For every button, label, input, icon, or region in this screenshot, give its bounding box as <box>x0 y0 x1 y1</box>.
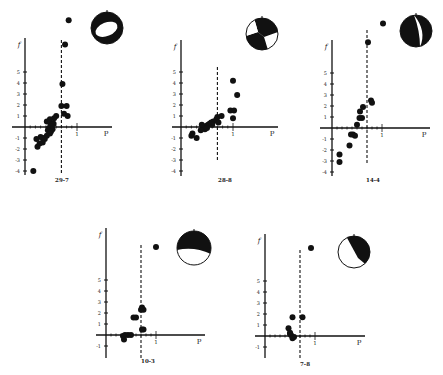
y-tick-label: 5 <box>173 69 176 75</box>
data-point <box>347 143 353 149</box>
y-tick-label: 3 <box>173 91 176 97</box>
data-point <box>121 336 127 342</box>
y-axis-label: f <box>324 43 329 51</box>
figure-canvas: 54321-1-2-3-41Pf29-754321-1-2-3-41Pf28-8… <box>0 0 443 375</box>
y-tick-label: -1 <box>255 344 260 350</box>
y-tick-label: 3 <box>324 92 327 98</box>
data-point <box>290 314 296 320</box>
y-tick-label: 2 <box>173 102 176 108</box>
data-point <box>357 115 363 121</box>
y-tick-label: -2 <box>171 146 176 152</box>
data-point <box>64 103 70 109</box>
data-point <box>62 42 68 48</box>
y-tick-label: 3 <box>98 299 101 305</box>
data-point <box>204 125 210 131</box>
data-point <box>40 139 46 145</box>
data-point <box>131 314 137 320</box>
panel-14-4: 54321-1-2-3-41Pf14-4 <box>320 13 432 183</box>
x-axis-label: P <box>197 338 202 346</box>
data-point <box>380 21 386 27</box>
data-point <box>153 244 159 250</box>
panel-label: 14-4 <box>366 177 380 183</box>
y-tick-label: -4 <box>171 168 176 174</box>
y-tick-label: 5 <box>17 69 20 75</box>
data-point <box>308 245 314 251</box>
y-tick-label: -1 <box>96 343 101 349</box>
focal-mechanism-beachball-icon <box>400 13 432 47</box>
x-tick-label: 1 <box>380 132 384 138</box>
y-axis-label: f <box>257 237 262 245</box>
panel-label: 10-3 <box>141 358 155 364</box>
y-tick-label: 5 <box>257 278 260 284</box>
x-tick-label: 1 <box>154 339 158 345</box>
y-tick-label: -2 <box>15 146 20 152</box>
data-point <box>287 330 293 336</box>
y-tick-label: -2 <box>322 147 327 153</box>
y-tick-label: 1 <box>173 113 176 119</box>
data-point <box>337 159 343 165</box>
data-point <box>194 135 200 141</box>
x-tick-label: 1 <box>75 131 79 137</box>
y-tick-label: -1 <box>322 136 327 142</box>
data-point <box>139 327 145 333</box>
data-point <box>58 103 64 109</box>
x-tick-label: 1 <box>313 340 317 346</box>
data-point <box>234 92 240 98</box>
y-tick-label: 4 <box>98 288 101 294</box>
y-tick-label: 1 <box>17 113 20 119</box>
data-point <box>34 144 40 150</box>
data-point <box>365 39 371 45</box>
data-point <box>352 133 358 139</box>
y-tick-label: 2 <box>257 311 260 317</box>
data-point <box>215 120 221 126</box>
focal-mechanism-beachball-icon <box>91 10 123 44</box>
panel-label: 7-8 <box>300 361 310 367</box>
data-point <box>199 122 205 128</box>
focal-mechanism-beachball-icon <box>177 229 211 265</box>
y-axis-label: f <box>98 231 103 239</box>
y-tick-label: 3 <box>17 91 20 97</box>
y-tick-label: 5 <box>324 70 327 76</box>
data-point <box>231 108 237 114</box>
y-axis-label: f <box>17 41 22 49</box>
y-tick-label: -3 <box>322 158 327 164</box>
y-tick-label: 4 <box>17 80 20 86</box>
x-axis-label: P <box>357 339 362 347</box>
data-point <box>30 168 36 174</box>
x-axis-label: P <box>104 130 109 138</box>
y-tick-label: -1 <box>171 135 176 141</box>
data-point <box>230 115 236 121</box>
data-point <box>65 113 71 119</box>
y-tick-label: -3 <box>171 157 176 163</box>
data-point <box>354 122 360 128</box>
x-axis-label: P <box>422 131 427 139</box>
data-point <box>66 17 72 23</box>
data-point <box>198 127 204 133</box>
panel-7-8: 54321-11Pf7-8 <box>255 234 370 367</box>
y-tick-label: -1 <box>15 135 20 141</box>
focal-mechanism-beachball-icon <box>338 234 370 268</box>
y-tick-label: -4 <box>15 168 20 174</box>
data-point <box>357 109 363 115</box>
y-tick-label: -3 <box>15 157 20 163</box>
y-tick-label: 2 <box>324 103 327 109</box>
y-axis-label: f <box>173 43 178 51</box>
data-point <box>337 151 343 157</box>
y-tick-label: 4 <box>324 81 327 87</box>
y-tick-label: 2 <box>17 102 20 108</box>
panel-label: 28-8 <box>218 177 232 183</box>
data-point <box>138 307 144 313</box>
x-tick-label: 1 <box>231 131 235 137</box>
data-point <box>300 314 306 320</box>
y-tick-label: 2 <box>98 310 101 316</box>
data-point <box>230 78 236 84</box>
y-tick-label: 4 <box>173 80 176 86</box>
y-tick-label: -4 <box>322 169 327 175</box>
panel-29-7: 54321-1-2-3-41Pf29-7 <box>12 10 123 183</box>
y-tick-label: 1 <box>324 114 327 120</box>
y-tick-label: 1 <box>98 321 101 327</box>
x-axis-label: P <box>270 130 275 138</box>
data-point <box>59 81 65 87</box>
y-tick-label: 3 <box>257 300 260 306</box>
data-point <box>369 100 375 106</box>
